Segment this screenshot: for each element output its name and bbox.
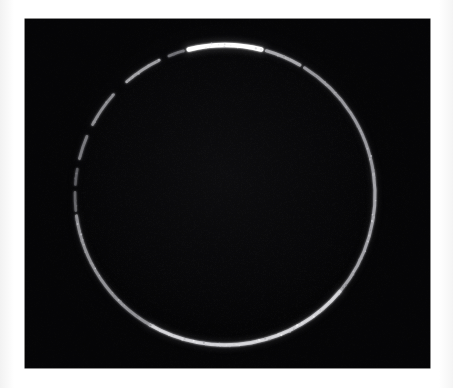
ring-knot bbox=[375, 197, 376, 198]
astronomical-image-panel bbox=[25, 19, 430, 368]
ring-knot bbox=[373, 176, 374, 177]
ring-knot bbox=[218, 44, 219, 45]
ring-knot bbox=[97, 116, 99, 118]
ring-knot bbox=[304, 322, 305, 323]
ring-knot bbox=[118, 299, 120, 301]
ring-knot bbox=[277, 55, 279, 57]
ring-knot bbox=[182, 51, 183, 52]
ring-knot bbox=[184, 338, 186, 340]
ring-knot bbox=[258, 339, 260, 341]
ring-knot bbox=[79, 230, 81, 232]
ring-knot bbox=[239, 345, 241, 347]
ring-knot bbox=[126, 81, 128, 83]
ring-knot bbox=[107, 100, 109, 102]
ring-knot bbox=[341, 288, 343, 290]
ring-knot bbox=[313, 316, 315, 318]
ring-knot bbox=[131, 312, 132, 313]
ring-knot bbox=[104, 104, 105, 105]
ring-knot bbox=[208, 344, 210, 346]
ring-knot bbox=[368, 235, 370, 237]
ring-knot bbox=[339, 99, 341, 101]
ring-knot bbox=[75, 219, 77, 221]
ring-knot bbox=[254, 342, 255, 343]
ring-knot bbox=[106, 286, 107, 287]
ring-knot bbox=[182, 337, 183, 338]
ring-knot bbox=[256, 340, 257, 341]
ring-knot bbox=[261, 340, 262, 341]
ring-knot bbox=[374, 185, 375, 186]
ring-knot bbox=[345, 284, 347, 286]
ring-knot bbox=[103, 108, 104, 109]
ring-knot bbox=[369, 229, 371, 231]
ring-knot bbox=[351, 116, 352, 117]
ring-knot bbox=[150, 325, 152, 327]
ring-knot bbox=[338, 293, 340, 295]
ring-knot bbox=[230, 45, 231, 46]
ring-knot bbox=[335, 298, 336, 299]
ring-knot bbox=[117, 298, 118, 299]
ring-segment-glow bbox=[304, 68, 373, 174]
ring-segment-highlight bbox=[150, 291, 340, 345]
ring-knot bbox=[239, 45, 241, 47]
ring-knot bbox=[216, 345, 217, 346]
ring-knot bbox=[345, 106, 347, 108]
ring-knot bbox=[158, 59, 160, 61]
ring-knot bbox=[96, 119, 97, 120]
ring-knot bbox=[138, 71, 139, 72]
ring-knot bbox=[333, 92, 334, 93]
ring-knot bbox=[363, 252, 365, 254]
ring-knot bbox=[283, 334, 284, 335]
ring-knot bbox=[147, 323, 148, 324]
ring-knot bbox=[285, 58, 286, 59]
ring-segment bbox=[266, 51, 300, 65]
ring-knot bbox=[105, 101, 107, 103]
ring-knot bbox=[199, 341, 200, 342]
ring-knot bbox=[339, 97, 341, 99]
ring-knot bbox=[372, 170, 373, 171]
ring-knot bbox=[168, 334, 170, 336]
ring-knot bbox=[374, 200, 375, 201]
ring-knot bbox=[226, 344, 227, 345]
ring-knot bbox=[114, 297, 116, 299]
ring-knot bbox=[94, 268, 95, 269]
ring-knot bbox=[289, 331, 291, 333]
ring-knot bbox=[82, 151, 83, 152]
ring-knot bbox=[82, 239, 84, 241]
ring-knot bbox=[270, 337, 271, 338]
luminous-ring-plot bbox=[25, 19, 430, 368]
ring-knot bbox=[260, 48, 262, 50]
ring-knot bbox=[334, 92, 335, 93]
ring-knot bbox=[374, 176, 376, 178]
ring-knot bbox=[100, 280, 101, 281]
figure-root bbox=[0, 0, 453, 388]
ring-knot bbox=[124, 304, 125, 305]
ring-knot bbox=[338, 291, 339, 292]
ring-knot bbox=[94, 121, 96, 123]
ring-segment bbox=[127, 60, 160, 82]
ring-knot bbox=[74, 195, 75, 196]
ring-knot bbox=[289, 58, 290, 59]
ring-knot bbox=[193, 340, 195, 342]
ring-knot bbox=[269, 52, 270, 53]
ring-knot bbox=[236, 344, 237, 345]
ring-knot bbox=[75, 171, 76, 172]
ring-knot bbox=[268, 339, 270, 341]
ring-knot bbox=[158, 329, 159, 330]
ring-knot bbox=[84, 139, 85, 140]
ring-knot bbox=[356, 125, 358, 127]
ring-knot bbox=[371, 220, 373, 222]
ring-knot bbox=[368, 151, 369, 152]
ring-knot bbox=[244, 44, 245, 45]
ring-knot bbox=[203, 45, 205, 47]
ring-knot bbox=[85, 250, 87, 252]
ring-knot bbox=[198, 47, 200, 49]
ring-knot bbox=[361, 258, 363, 260]
ring-knot bbox=[352, 118, 353, 119]
ring-knot bbox=[138, 72, 140, 74]
ring-knot bbox=[367, 240, 369, 242]
ring-knot bbox=[225, 43, 226, 44]
ring-knot bbox=[196, 342, 198, 344]
ring-knot bbox=[85, 252, 86, 253]
ring-knot bbox=[296, 63, 297, 64]
ring-knot bbox=[370, 228, 371, 229]
